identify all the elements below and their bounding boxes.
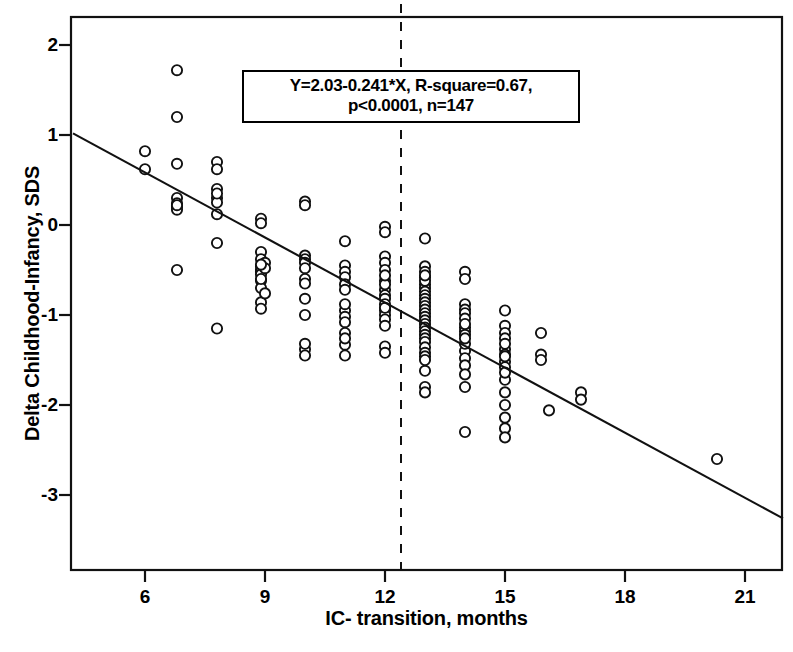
y-tick-label: 2: [14, 34, 58, 56]
x-axis-title: IC- transition, months: [71, 607, 782, 630]
y-tick-label: -2: [14, 394, 58, 416]
x-tick-label: 12: [374, 586, 395, 608]
x-tick-label: 21: [734, 586, 755, 608]
y-tick-label: -3: [14, 484, 58, 506]
x-axis-ticks: [145, 570, 745, 582]
y-axis-ticks: [59, 45, 71, 495]
y-tick-label: 1: [14, 124, 58, 146]
x-tick-label: 15: [494, 586, 515, 608]
x-tick-label: 9: [260, 586, 271, 608]
chart-container: Delta Childhood-Infancy, SDS IC- transit…: [0, 0, 793, 652]
y-tick-label: -1: [14, 304, 58, 326]
x-tick-label: 6: [140, 586, 151, 608]
regression-line: [73, 133, 783, 518]
data-points: [140, 65, 722, 464]
y-tick-label: 0: [14, 214, 58, 236]
statistics-annotation: Y=2.03-0.241*X, R-square=0.67, p<0.0001,…: [242, 70, 580, 123]
x-tick-label: 18: [614, 586, 635, 608]
